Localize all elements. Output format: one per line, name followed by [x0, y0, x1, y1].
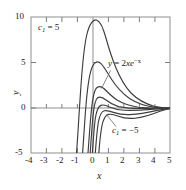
equation-body: xe [126, 58, 134, 68]
upper-param-sub: 1 [42, 26, 45, 33]
y-tick-label-minus-5: -5 [15, 148, 23, 157]
lower-param-eq: = [122, 125, 127, 135]
x-tick-label-1: 1 [105, 156, 110, 165]
y-tick-label-0: 0 [21, 103, 26, 112]
y-tick-label-10: 10 [15, 12, 24, 21]
lower-param-sub: 1 [116, 129, 119, 136]
x-tick-label-5: 5 [167, 156, 172, 165]
x-tick-label-minus-2: -2 [56, 156, 64, 165]
x-tick-label-4: 4 [151, 156, 156, 165]
x-tick-label-minus-3: -3 [40, 156, 48, 165]
x-axis-title: x [97, 171, 101, 181]
upper-parameter-annotation: c1 = 5 [38, 23, 59, 33]
upper-param-eq: = [48, 22, 53, 32]
x-tick-label-minus-1: -1 [71, 156, 79, 165]
x-tick-label-2: 2 [120, 156, 125, 165]
equation-lhs: y [108, 58, 112, 68]
equation-exponent: −x [134, 57, 141, 64]
y-tick-label-5: 5 [21, 58, 26, 67]
y-axis-title: y [11, 91, 21, 95]
x-tick-label-0: 0 [90, 156, 95, 165]
equation-eq: = 2 [114, 58, 126, 68]
equation-annotation: y = 2xe−x [108, 58, 141, 68]
lower-parameter-annotation: c1 = −5 [112, 126, 138, 136]
figure-container: 10 5 0 -5 -4 -3 -2 -1 0 1 2 3 4 5 y x c1… [0, 0, 186, 190]
lower-param-val: −5 [129, 125, 139, 135]
x-tick-label-minus-4: -4 [25, 156, 33, 165]
upper-param-val: 5 [55, 22, 60, 32]
x-tick-label-3: 3 [136, 156, 141, 165]
